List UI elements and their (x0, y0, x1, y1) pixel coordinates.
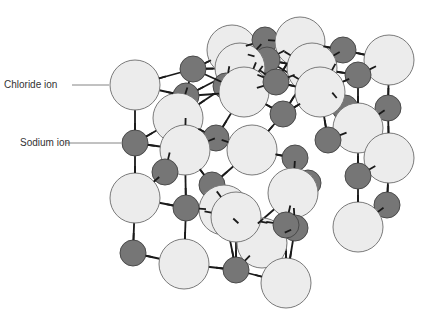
bond-stub (205, 211, 212, 212)
sodium-ion (273, 212, 299, 238)
bond-stub (146, 256, 153, 257)
sodium-ion-label: Sodium ion (20, 137, 70, 148)
bond-stub (232, 250, 233, 257)
bond-stub (148, 145, 155, 146)
bond-stub (325, 120, 326, 127)
sodium-ion (120, 240, 146, 266)
chloride-ion (159, 239, 209, 289)
bond-stub (216, 268, 223, 269)
chloride-ion (227, 125, 277, 175)
chloride-ion (364, 133, 414, 183)
chloride-ion (333, 202, 383, 252)
sodium-ion (345, 62, 371, 88)
bond-stub (222, 172, 227, 177)
bond-stub (337, 72, 344, 73)
bond-stub (255, 275, 262, 277)
sodium-ion (122, 130, 148, 156)
bond-stub (200, 169, 204, 175)
bond-stub (198, 87, 204, 90)
bond-stub (268, 126, 273, 131)
chloride-ion (110, 60, 160, 110)
bond-stub (159, 76, 166, 78)
bond-stub (228, 66, 229, 73)
sodium-ion (180, 56, 206, 82)
chloride-ion-label: Chloride ion (4, 79, 57, 90)
sodium-ion (223, 257, 249, 283)
lattice-ions (110, 17, 414, 308)
bond-stub (323, 46, 330, 47)
chloride-ion (295, 67, 345, 117)
sodium-ion (315, 127, 341, 153)
bond-stub (223, 121, 227, 127)
chloride-ion (268, 168, 318, 218)
bond-stub (166, 92, 173, 93)
bond-stub (290, 251, 291, 258)
bond-stub (358, 53, 365, 54)
chloride-ion (364, 35, 414, 85)
bond-stub (275, 154, 282, 155)
sodium-ion (173, 195, 199, 221)
sodium-ion (152, 159, 178, 185)
bond-stub (280, 62, 287, 63)
chloride-ion (261, 258, 311, 308)
chloride-ion (219, 67, 269, 117)
sodium-ion (345, 163, 371, 189)
bond-stub (166, 204, 173, 205)
bond-stub (266, 104, 272, 107)
bond-stub (146, 133, 152, 137)
sodium-ion (270, 101, 296, 127)
nacl-lattice-diagram (0, 0, 435, 326)
bond-stub (266, 222, 273, 223)
chloride-ion (211, 192, 261, 242)
bond-stub (199, 100, 205, 104)
bond-stub (290, 97, 294, 103)
sodium-ion (263, 69, 289, 95)
chloride-ion (110, 173, 160, 223)
